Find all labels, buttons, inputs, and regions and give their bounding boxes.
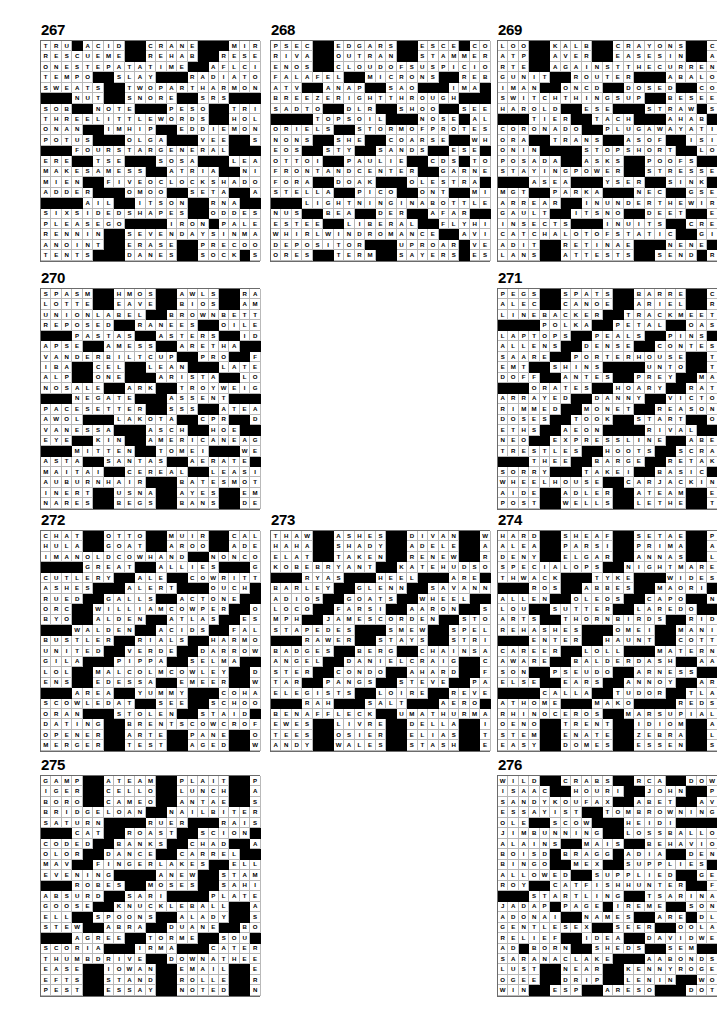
- answer-cell: A: [125, 415, 135, 425]
- answer-cell: P: [104, 62, 114, 72]
- black-square: [125, 933, 135, 943]
- answer-cell: A: [83, 625, 93, 635]
- black-square: [62, 828, 72, 838]
- black-square: [72, 667, 82, 677]
- black-square: [177, 93, 187, 103]
- answer-cell: S: [592, 944, 602, 954]
- answer-cell: S: [519, 807, 529, 817]
- answer-cell: M: [508, 362, 518, 372]
- answer-cell: W: [135, 552, 145, 562]
- black-square: [334, 219, 344, 229]
- black-square: [156, 488, 166, 498]
- answer-grid: THAWASHESDIVANWHAHASHADYADELEAELATTAKENR…: [270, 530, 490, 752]
- answer-cell: N: [62, 229, 72, 239]
- answer-cell: E: [41, 964, 51, 974]
- answer-cell: P: [540, 902, 550, 912]
- black-square: [93, 657, 103, 667]
- black-square: [697, 541, 707, 551]
- black-square: [561, 198, 571, 208]
- answer-cell: E: [302, 125, 312, 135]
- answer-cell: O: [313, 104, 323, 114]
- answer-cell: U: [666, 62, 676, 72]
- answer-cell: O: [250, 604, 260, 614]
- black-square: [114, 229, 124, 239]
- answer-cell: L: [480, 114, 490, 124]
- answer-cell: T: [135, 352, 145, 362]
- answer-cell: O: [386, 688, 396, 698]
- answer-cell: O: [250, 72, 260, 82]
- answer-cell: A: [480, 709, 490, 719]
- answer-cell: E: [571, 383, 581, 393]
- answer-cell: I: [676, 177, 686, 187]
- answer-cell: T: [645, 415, 655, 425]
- black-square: [135, 219, 145, 229]
- answer-cell: A: [508, 229, 518, 239]
- black-square: [167, 678, 177, 688]
- black-square: [156, 807, 166, 817]
- black-square: [167, 594, 177, 604]
- answer-cell: O: [592, 299, 602, 309]
- answer-cell: A: [229, 467, 239, 477]
- answer-cell: S: [146, 740, 156, 750]
- black-square: [666, 436, 676, 446]
- answer-cell: O: [582, 415, 592, 425]
- answer-cell: O: [540, 583, 550, 593]
- answer-cell: T: [292, 156, 302, 166]
- answer-cell: R: [397, 72, 407, 82]
- answer-cell: K: [571, 310, 581, 320]
- answer-cell: L: [72, 415, 82, 425]
- black-square: [561, 72, 571, 82]
- answer-cell: L: [376, 114, 386, 124]
- answer-cell: P: [51, 341, 61, 351]
- answer-cell: G: [302, 688, 312, 698]
- black-square: [198, 870, 208, 880]
- answer-cell: E: [209, 923, 219, 933]
- black-square: [707, 331, 717, 341]
- black-square: [219, 562, 229, 572]
- answer-cell: O: [428, 104, 438, 114]
- black-square: [93, 498, 103, 508]
- answer-cell: Y: [104, 573, 114, 583]
- answer-cell: B: [480, 72, 490, 82]
- black-square: [323, 657, 333, 667]
- answer-cell: C: [407, 657, 417, 667]
- answer-cell: U: [645, 362, 655, 372]
- answer-cell: W: [135, 83, 145, 93]
- answer-cell: I: [281, 51, 291, 61]
- answer-cell: D: [104, 849, 114, 859]
- answer-cell: T: [529, 114, 539, 124]
- answer-cell: A: [302, 51, 312, 61]
- black-square: [508, 688, 518, 698]
- answer-cell: K: [550, 41, 560, 51]
- answer-cell: E: [603, 167, 613, 177]
- answer-cell: C: [561, 299, 571, 309]
- answer-cell: N: [62, 352, 72, 362]
- answer-cell: T: [666, 146, 676, 156]
- black-square: [355, 146, 365, 156]
- answer-cell: T: [125, 83, 135, 93]
- black-square: [167, 135, 177, 145]
- answer-cell: E: [508, 923, 518, 933]
- answer-cell: L: [519, 594, 529, 604]
- answer-cell: D: [365, 667, 375, 677]
- answer-cell: R: [240, 289, 250, 299]
- black-square: [125, 156, 135, 166]
- answer-cell: F: [397, 62, 407, 72]
- black-square: [240, 678, 250, 688]
- answer-cell: I: [686, 467, 696, 477]
- answer-cell: N: [51, 488, 61, 498]
- black-square: [240, 594, 250, 604]
- black-square: [93, 341, 103, 351]
- answer-cell: E: [519, 62, 529, 72]
- answer-cell: R: [41, 594, 51, 604]
- answer-cell: I: [707, 229, 717, 239]
- answer-cell: E: [250, 498, 260, 508]
- black-square: [93, 923, 103, 933]
- answer-cell: S: [156, 839, 166, 849]
- black-square: [323, 552, 333, 562]
- answer-cell: P: [167, 352, 177, 362]
- black-square: [313, 678, 323, 688]
- answer-cell: A: [592, 552, 602, 562]
- answer-cell: D: [407, 531, 417, 541]
- answer-cell: A: [146, 488, 156, 498]
